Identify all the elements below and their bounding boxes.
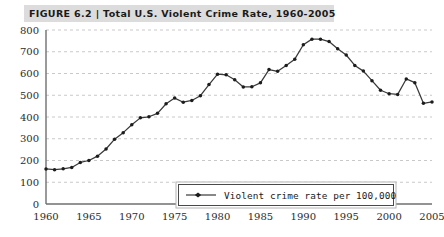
x-tick-label-1985: 1985 bbox=[248, 211, 273, 222]
data-point-1976 bbox=[181, 100, 185, 104]
data-point-1988 bbox=[284, 64, 288, 67]
figure-title: FIGURE 6.2 | Total U.S. Violent Crime Ra… bbox=[29, 8, 336, 19]
gridlines bbox=[46, 30, 432, 182]
x-tick-label-1995: 1995 bbox=[333, 211, 358, 222]
data-point-1970 bbox=[130, 123, 134, 127]
data-point-1990 bbox=[302, 43, 306, 47]
y-tick-label-400: 400 bbox=[20, 112, 39, 123]
data-point-1998 bbox=[370, 79, 374, 83]
x-tick-label-2005: 2005 bbox=[419, 211, 444, 222]
y-tick-label-700: 700 bbox=[20, 46, 39, 57]
data-point-1965 bbox=[87, 159, 91, 163]
data-point-1980 bbox=[216, 72, 220, 76]
data-point-1968 bbox=[113, 137, 117, 141]
y-axis-tick-labels: 0100200300400500600700800 bbox=[20, 25, 39, 210]
x-tick-label-1975: 1975 bbox=[162, 211, 187, 222]
data-point-1983 bbox=[242, 85, 246, 89]
y-tick-label-500: 500 bbox=[20, 90, 39, 101]
data-point-1960 bbox=[44, 167, 48, 171]
data-point-1997 bbox=[362, 69, 366, 73]
data-point-2004 bbox=[422, 102, 426, 106]
y-tick-label-600: 600 bbox=[20, 68, 39, 79]
figure-title-band: FIGURE 6.2 | Total U.S. Violent Crime Ra… bbox=[24, 5, 334, 22]
data-point-1978 bbox=[199, 94, 203, 98]
data-point-1993 bbox=[327, 40, 331, 44]
data-point-1979 bbox=[207, 83, 211, 87]
data-point-1973 bbox=[156, 112, 160, 116]
data-point-1982 bbox=[233, 78, 237, 82]
series-path-violent-crime-rate bbox=[46, 39, 432, 170]
data-point-2003 bbox=[413, 81, 417, 85]
data-point-1971 bbox=[139, 116, 143, 120]
y-tick-label-200: 200 bbox=[20, 155, 39, 166]
data-point-1961 bbox=[53, 168, 57, 172]
data-point-1985 bbox=[259, 81, 263, 85]
data-point-1994 bbox=[336, 47, 340, 51]
y-tick-label-800: 800 bbox=[20, 25, 39, 36]
x-tick-label-1960: 1960 bbox=[33, 211, 58, 222]
chart-plot-area: 0100200300400500600700800 19601965197019… bbox=[0, 24, 444, 237]
data-series-line bbox=[46, 39, 432, 170]
data-point-1987 bbox=[276, 70, 280, 74]
data-point-1974 bbox=[164, 102, 168, 106]
x-tick-label-2000: 2000 bbox=[376, 211, 401, 222]
data-point-1962 bbox=[61, 167, 65, 171]
data-point-2002 bbox=[405, 77, 409, 81]
x-tick-label-1980: 1980 bbox=[205, 211, 230, 222]
y-tick-label-300: 300 bbox=[20, 133, 39, 144]
data-point-1992 bbox=[319, 37, 323, 41]
data-point-1972 bbox=[147, 115, 151, 119]
y-tick-label-100: 100 bbox=[20, 177, 39, 188]
data-point-1984 bbox=[250, 85, 254, 89]
data-point-1989 bbox=[293, 57, 297, 61]
data-point-2005 bbox=[430, 100, 434, 104]
data-point-1996 bbox=[353, 64, 357, 67]
data-point-1977 bbox=[190, 99, 194, 103]
x-tick-label-1965: 1965 bbox=[76, 211, 101, 222]
data-point-1981 bbox=[224, 73, 228, 77]
data-point-2000 bbox=[387, 92, 391, 96]
data-point-1986 bbox=[267, 68, 271, 72]
data-point-1975 bbox=[173, 96, 177, 100]
data-point-1991 bbox=[310, 37, 314, 41]
data-point-1995 bbox=[344, 53, 348, 57]
x-tick-label-1970: 1970 bbox=[119, 211, 144, 222]
data-point-1967 bbox=[104, 147, 108, 151]
data-point-1969 bbox=[121, 131, 125, 135]
legend-label: Violent crime rate per 100,000 bbox=[224, 190, 397, 201]
data-point-1999 bbox=[379, 89, 383, 93]
x-tick-label-1990: 1990 bbox=[291, 211, 316, 222]
data-point-1963 bbox=[70, 166, 74, 170]
data-point-2001 bbox=[396, 93, 400, 97]
x-axis-tick-labels: 1960196519701975198019851990199520002005 bbox=[33, 211, 444, 222]
line-chart-svg: 0100200300400500600700800 19601965197019… bbox=[0, 24, 444, 237]
y-tick-label-0: 0 bbox=[33, 199, 39, 210]
data-point-1966 bbox=[96, 154, 100, 158]
chart-legend: Violent crime rate per 100,000 bbox=[176, 182, 397, 208]
data-point-1964 bbox=[79, 161, 83, 165]
figure-container: FIGURE 6.2 | Total U.S. Violent Crime Ra… bbox=[0, 0, 444, 237]
